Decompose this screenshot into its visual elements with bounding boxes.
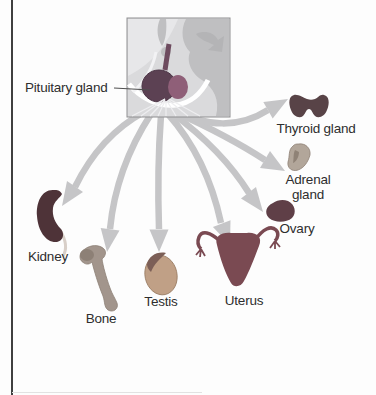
adrenal-illustration: [288, 144, 310, 171]
thyroid-illustration: [289, 95, 328, 117]
pituitary-gland-label: Pituitary gland: [25, 80, 117, 95]
figure-pituitary-target-organs: Pituitary gland Thyroid gland Adrenal gl…: [0, 0, 376, 395]
ovary-illustration: [266, 200, 295, 222]
thyroid-gland-label: Thyroid gland: [271, 121, 361, 136]
uterus-illustration: [196, 228, 280, 286]
testis-label: Testis: [136, 294, 186, 309]
kidney-illustration: [37, 190, 66, 256]
arrowhead-testis: [150, 230, 169, 253]
pituitary-inset-box: [127, 18, 230, 117]
bone-illustration: [80, 246, 117, 311]
hormone-arrows: [75, 109, 268, 229]
uterus-label: Uterus: [217, 293, 271, 308]
arrow-to-testis: [158, 115, 161, 229]
kidney-label: Kidney: [22, 249, 74, 264]
uterus-body: [216, 233, 260, 286]
fimbriae-right: [270, 241, 280, 249]
adrenal-gland-label: Adrenal gland: [281, 172, 335, 202]
adrenal-gland-label-line1: Adrenal: [281, 172, 335, 187]
fimbriae-left: [196, 249, 205, 257]
adrenal-gland-label-line2: gland: [281, 187, 335, 202]
testis-illustration: [141, 252, 181, 298]
pituitary-posterior-lobe: [168, 75, 188, 99]
ovary-label: Ovary: [272, 221, 322, 236]
bone-label: Bone: [77, 311, 125, 326]
bone-head: [80, 249, 94, 261]
